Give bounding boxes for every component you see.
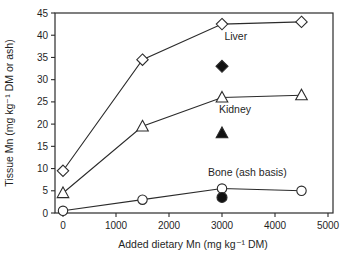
- y-tick-label: 35: [37, 52, 49, 63]
- x-tick-label: 4000: [264, 220, 287, 231]
- plot-svg: 051015202530354045010002000300040005000L…: [0, 0, 348, 263]
- kidney-marker: [57, 187, 69, 198]
- y-tick-label: 5: [42, 185, 48, 196]
- bone-marker: [217, 184, 226, 193]
- liver-marker: [296, 16, 307, 27]
- x-tick-label: 1000: [105, 220, 128, 231]
- y-tick-label: 10: [37, 163, 49, 174]
- liver-marker: [216, 18, 227, 29]
- bone-marker: [58, 206, 67, 215]
- circle-filled-marker: [217, 192, 227, 202]
- x-tick-label: 3000: [211, 220, 234, 231]
- bone-marker: [138, 195, 147, 204]
- liver-marker: [137, 54, 148, 65]
- x-tick-label: 0: [60, 220, 66, 231]
- liver-marker: [57, 165, 68, 176]
- y-axis-title: Tissue Mn (mg kg⁻¹ DM or ash): [3, 39, 15, 186]
- y-tick-label: 0: [42, 208, 48, 219]
- y-tick-label: 40: [37, 30, 49, 41]
- y-tick-label: 30: [37, 74, 49, 85]
- y-tick-label: 15: [37, 141, 49, 152]
- x-tick-label: 5000: [317, 220, 340, 231]
- kidney-marker: [137, 120, 149, 131]
- series-label-liver: Liver: [224, 30, 247, 42]
- x-tick-label: 2000: [158, 220, 181, 231]
- y-tick-label: 45: [37, 8, 49, 19]
- chart-figure: Tissue Mn (mg kg⁻¹ DM or ash) 0510152025…: [0, 0, 348, 263]
- kidney-marker: [296, 89, 308, 100]
- bone-marker: [297, 186, 306, 195]
- plot-frame: [55, 13, 333, 213]
- kidney-marker: [216, 91, 228, 102]
- triangle-filled-marker: [216, 127, 228, 138]
- series-line-kidney: [63, 95, 302, 193]
- x-axis-title: Added dietary Mn (mg kg⁻¹ DM): [118, 238, 268, 250]
- y-tick-label: 25: [37, 96, 49, 107]
- series-label-bone: Bone (ash basis): [208, 166, 287, 178]
- series-line-bone: [63, 189, 302, 211]
- series-label-kidney: Kidney: [219, 103, 252, 115]
- y-tick-label: 20: [37, 119, 49, 130]
- diamond-filled-marker: [216, 60, 228, 72]
